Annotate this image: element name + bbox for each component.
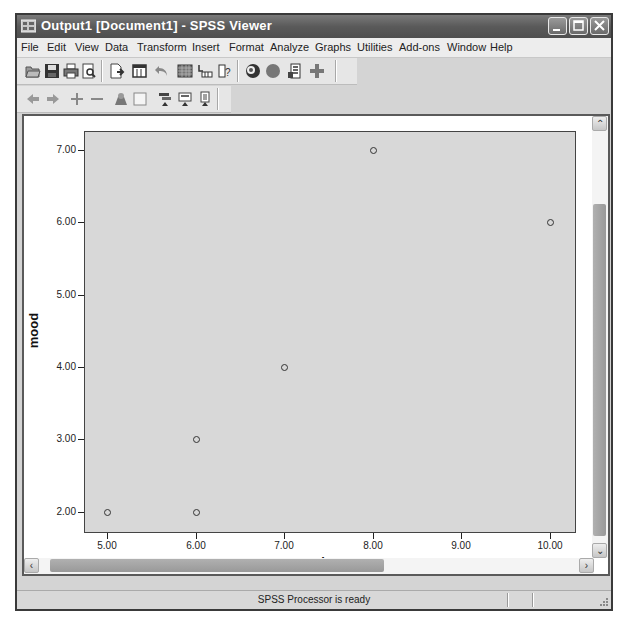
back-icon[interactable] — [25, 91, 41, 107]
x-tick-label: 5.00 — [87, 540, 127, 551]
plot-area — [84, 131, 576, 533]
y-tick-label: 3.00 — [36, 433, 76, 444]
print-icon[interactable] — [63, 63, 79, 79]
x-tick-mark — [284, 533, 285, 539]
variables-icon[interactable]: ? — [217, 63, 233, 79]
menu-transform[interactable]: Transform — [137, 41, 187, 53]
standard-toolbar: ? — [17, 58, 357, 85]
menu-view[interactable]: View — [75, 41, 99, 53]
x-tick-label: 6.00 — [176, 540, 216, 551]
export-icon[interactable] — [109, 63, 125, 79]
goto-case-icon[interactable] — [197, 63, 213, 79]
data-editor-icon[interactable] — [177, 63, 193, 79]
menu-insert[interactable]: Insert — [192, 41, 220, 53]
data-point — [193, 509, 200, 516]
designate-window-icon[interactable] — [287, 63, 303, 79]
resize-grip-icon[interactable] — [599, 597, 609, 607]
scroll-right-button[interactable]: › — [579, 558, 594, 573]
scroll-left-button[interactable]: ‹ — [24, 558, 39, 573]
save-icon[interactable] — [44, 63, 60, 79]
insert-title-icon[interactable] — [177, 91, 193, 107]
select-cases-icon[interactable] — [245, 63, 261, 79]
maximize-button[interactable] — [569, 17, 588, 35]
expand-icon[interactable] — [69, 91, 85, 107]
x-tick-mark — [550, 533, 551, 539]
minimize-button[interactable] — [548, 17, 567, 35]
x-tick-mark — [461, 533, 462, 539]
collapse-icon[interactable] — [89, 91, 105, 107]
x-tick-mark — [107, 533, 108, 539]
x-tick-label: 10.00 — [530, 540, 570, 551]
y-axis-label: mood — [26, 313, 41, 348]
menu-utilities[interactable]: Utilities — [357, 41, 392, 53]
data-point — [370, 147, 377, 154]
menu-help[interactable]: Help — [490, 41, 513, 53]
undo-icon[interactable] — [154, 63, 170, 79]
menu-analyze[interactable]: Analyze — [270, 41, 309, 53]
toolbar-separator — [101, 60, 103, 82]
y-tick-label: 5.00 — [36, 289, 76, 300]
scroll-up-button[interactable]: ⌃ — [592, 116, 607, 131]
data-point — [281, 364, 288, 371]
vertical-scroll-thumb[interactable] — [593, 204, 606, 536]
toolbar-separator — [335, 60, 337, 82]
show-icon[interactable] — [113, 91, 129, 107]
menu-format[interactable]: Format — [229, 41, 264, 53]
hide-icon[interactable] — [132, 91, 148, 107]
scatter-chart[interactable]: 7.00 6.00 5.00 4.00 3.00 2.00 5.00 6.00 … — [24, 116, 594, 558]
output-viewer-pane[interactable]: 7.00 6.00 5.00 4.00 3.00 2.00 5.00 6.00 … — [22, 114, 610, 576]
menu-graphs[interactable]: Graphs — [315, 41, 351, 53]
menu-edit[interactable]: Edit — [47, 41, 66, 53]
data-point — [193, 436, 200, 443]
status-message: SPSS Processor is ready — [17, 594, 611, 605]
y-tick-label: 7.00 — [36, 144, 76, 155]
vertical-scrollbar[interactable]: ⌃ ⌄ — [592, 116, 608, 558]
goto-data-icon[interactable] — [132, 63, 148, 79]
forward-icon[interactable] — [45, 91, 61, 107]
insert-text-icon[interactable] — [197, 91, 213, 107]
status-bar: SPSS Processor is ready — [17, 590, 611, 609]
y-tick-label: 2.00 — [36, 506, 76, 517]
horizontal-scrollbar[interactable]: ‹ › — [24, 558, 594, 574]
outline-toolbar — [17, 86, 231, 113]
print-preview-icon[interactable] — [81, 63, 97, 79]
menu-bar: File Edit View Data Transform Insert For… — [17, 38, 611, 58]
y-tick-mark — [78, 367, 84, 368]
x-tick-label: 7.00 — [264, 540, 304, 551]
x-tick-label: 9.00 — [441, 540, 481, 551]
open-icon[interactable] — [25, 63, 41, 79]
x-tick-label: 8.00 — [353, 540, 393, 551]
y-tick-label: 4.00 — [36, 361, 76, 372]
data-point — [547, 219, 554, 226]
menu-add-ons[interactable]: Add-ons — [399, 41, 440, 53]
x-tick-mark — [373, 533, 374, 539]
toolbar-separator — [217, 88, 219, 110]
data-point — [104, 509, 111, 516]
y-tick-mark — [78, 295, 84, 296]
y-tick-label: 6.00 — [36, 216, 76, 227]
value-labels-icon[interactable] — [265, 63, 281, 79]
y-tick-mark — [78, 150, 84, 151]
scroll-down-button[interactable]: ⌄ — [592, 543, 607, 558]
close-icon — [591, 18, 608, 34]
y-tick-mark — [78, 512, 84, 513]
y-tick-mark — [78, 439, 84, 440]
svg-text:?: ? — [225, 67, 231, 78]
insert-heading-icon[interactable] — [157, 91, 173, 107]
x-tick-mark — [196, 533, 197, 539]
window-title: Output1 [Document1] - SPSS Viewer — [41, 18, 272, 33]
spss-viewer-window: Output1 [Document1] - SPSS Viewer File E… — [15, 13, 613, 611]
close-button[interactable] — [590, 17, 609, 35]
toolbar-separator — [237, 60, 239, 82]
maximize-icon — [570, 18, 587, 34]
status-cell-divider — [507, 593, 509, 607]
status-cell-divider — [532, 593, 534, 607]
menu-file[interactable]: File — [21, 41, 39, 53]
title-bar[interactable]: Output1 [Document1] - SPSS Viewer — [17, 15, 611, 38]
y-tick-mark — [78, 222, 84, 223]
insert-icon[interactable] — [309, 63, 325, 79]
menu-window[interactable]: Window — [447, 41, 486, 53]
menu-data[interactable]: Data — [105, 41, 128, 53]
minimize-icon — [549, 18, 566, 34]
horizontal-scroll-thumb[interactable] — [50, 559, 384, 572]
